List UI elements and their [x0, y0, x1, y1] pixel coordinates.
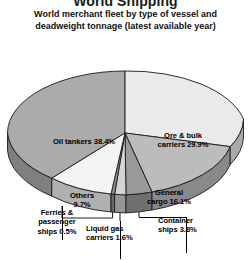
callout-label-ferries-line1: Ferries & [26, 208, 88, 217]
slice-label-general-cargo-line2: cargo 16.1% [132, 197, 206, 206]
slice-label-ore-bulk-line2: carriers 29.9% [140, 140, 226, 149]
callout-label-liquid-gas-carriers: Liquid gas carriers 1.6% [86, 224, 148, 243]
callout-label-container-line2: ships 3.8% [158, 225, 228, 234]
callout-label-ferries-line2: passenger [26, 217, 88, 226]
side-wall-liquid-gas [115, 194, 126, 213]
slice-label-oil-tankers-line1: Oil tankers 38.4% [36, 137, 132, 146]
slice-label-others: Others 9.7% [58, 191, 106, 210]
callout-label-container-ships: Container ships 3.8% [158, 216, 228, 235]
chart-subtitle: World merchant fleet by type of vessel a… [12, 9, 239, 32]
slice-label-oil-tankers: Oil tankers 38.4% [36, 137, 132, 146]
callout-label-ferries-line3: ships 0.5% [26, 227, 88, 236]
callout-label-liquid-gas-line2: carriers 1.6% [86, 233, 148, 242]
side-wall-ferries [111, 194, 115, 212]
chart-page: World Shipping World merchant fleet by t… [0, 0, 251, 260]
slice-label-others-line1: Others [58, 191, 106, 200]
callout-label-ferries-passenger-ships: Ferries & passenger ships 0.5% [26, 208, 88, 236]
pie-chart: Oil tankers 38.4% Ore & bulk carriers 29… [0, 36, 251, 221]
callout-label-container-line1: Container [158, 216, 228, 225]
chart-title: World Shipping [0, 0, 251, 9]
slice-label-ore-bulk-line1: Ore & bulk [140, 131, 226, 140]
callout-label-liquid-gas-line1: Liquid gas [86, 224, 148, 233]
slice-label-general-cargo-line1: General [132, 188, 206, 197]
pie-chart-svg [0, 36, 251, 221]
slice-label-general-cargo: General cargo 16.1% [132, 188, 206, 207]
slice-label-ore-bulk-carriers: Ore & bulk carriers 29.9% [140, 131, 226, 150]
